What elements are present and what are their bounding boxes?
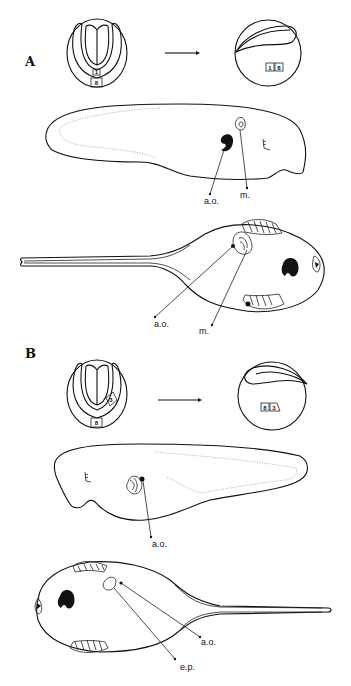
b-lateral-label-ao: a.o. bbox=[152, 539, 167, 549]
panel-b-arrow-icon bbox=[158, 398, 202, 402]
svg-text:8: 8 bbox=[95, 80, 99, 86]
panel-b-lateral-tadpole: a.o. bbox=[54, 444, 307, 549]
panel-a: A 1 8 1 8 bbox=[21, 19, 325, 336]
a-ventral-label-ao: a.o. bbox=[154, 319, 169, 329]
panel-a-early-embryo: 1 8 bbox=[67, 19, 127, 87]
svg-text:3: 3 bbox=[272, 405, 276, 411]
b-ventral-label-ao: a.o. bbox=[201, 637, 216, 647]
svg-text:3: 3 bbox=[109, 397, 113, 403]
panel-a-arrow-icon bbox=[165, 51, 200, 55]
panel-b-label: B bbox=[25, 346, 36, 361]
b-ventral-label-ep: e.p. bbox=[180, 662, 195, 672]
panel-b: B 3 8 8 3 bbox=[25, 346, 331, 672]
a-lateral-label-ao: a.o. bbox=[204, 196, 219, 206]
svg-text:1: 1 bbox=[268, 65, 272, 71]
a-lateral-label-m: m. bbox=[240, 190, 250, 200]
panel-b-ventral-tadpole: a.o. e.p. bbox=[35, 562, 331, 673]
panel-a-label: A bbox=[24, 54, 36, 69]
embryo-figure: A 1 8 1 8 bbox=[0, 0, 351, 686]
a-adhesive-organ-icon bbox=[221, 134, 233, 151]
panel-a-lateral-tadpole: a.o. m. bbox=[46, 104, 306, 206]
svg-text:8: 8 bbox=[95, 420, 99, 426]
panel-b-early-embryo: 3 8 bbox=[67, 360, 127, 428]
b-adhesive-organ-icon bbox=[140, 477, 145, 482]
panel-b-late-embryo: 8 3 bbox=[238, 362, 307, 430]
a-ventral-label-m: m. bbox=[199, 326, 209, 336]
panel-a-ventral-tadpole: a.o. m. bbox=[21, 220, 325, 337]
panel-a-late-embryo: 1 8 bbox=[235, 20, 301, 86]
svg-text:8: 8 bbox=[277, 65, 281, 71]
svg-text:8: 8 bbox=[263, 405, 267, 411]
